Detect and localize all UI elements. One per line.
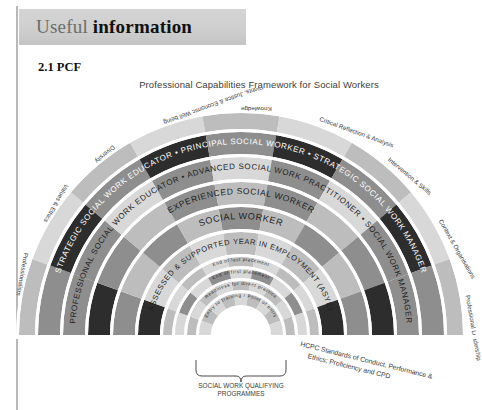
fan-baseline-mask: [0, 335, 482, 339]
page-title-bold: information: [93, 16, 192, 37]
page-title-light: Useful: [36, 16, 88, 37]
pcf-fan-diagram: STRATEGIC SOCIAL WORK EDUCATOR • PRINCIP…: [0, 88, 482, 406]
caption-qualifying-line2: PROGRAMMES: [218, 390, 265, 397]
section-header-band: Useful information: [19, 9, 246, 45]
domain-label-4: Knowledge: [240, 106, 271, 113]
qualifying-brace: [196, 360, 286, 382]
page-title: Useful information: [36, 16, 192, 38]
document-page: Useful information 2.1 PCF Professional …: [0, 0, 482, 410]
domain-label-8: Professional Leadership: [465, 294, 482, 361]
section-number: 2.1 PCF: [38, 60, 81, 75]
caption-qualifying-line1: SOCIAL WORK QUALIFYING: [198, 382, 283, 390]
caption-hcpc: HCPC Standards of Conduct, Performance &…: [297, 340, 434, 390]
pcf-fan-svg: STRATEGIC SOCIAL WORK EDUCATOR • PRINCIP…: [0, 88, 482, 406]
